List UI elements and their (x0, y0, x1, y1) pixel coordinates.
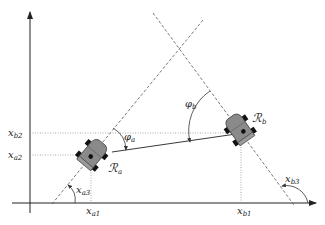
heading-line-b (153, 13, 294, 205)
label-robot-a: ℛa (108, 161, 122, 176)
diagram-canvas: xb2 xa2 xa1 xb1 xa3 xb3 φa φb ℛa ℛb (0, 0, 325, 225)
label-xa3: xa3 (76, 184, 91, 197)
label-xb1: xb1 (237, 205, 252, 218)
label-phi-a: φa (124, 131, 135, 144)
label-xb2: xb2 (8, 127, 23, 140)
label-phi-b: φb (185, 98, 197, 111)
label-xa1: xa1 (86, 205, 100, 218)
xb3-arc (282, 186, 308, 203)
label-robot-b: ℛb (252, 111, 267, 126)
label-xa2: xa2 (8, 149, 23, 162)
robot-a (74, 134, 113, 173)
diagram-svg: xb2 xa2 xa1 xb1 xa3 xb3 φa φb ℛa ℛb (0, 0, 325, 225)
robot-a-body (77, 137, 109, 170)
xa3-arc (68, 185, 75, 203)
heading-line-a (52, 20, 203, 204)
robot-b-body (223, 112, 254, 145)
label-xb3: xb3 (285, 173, 300, 186)
